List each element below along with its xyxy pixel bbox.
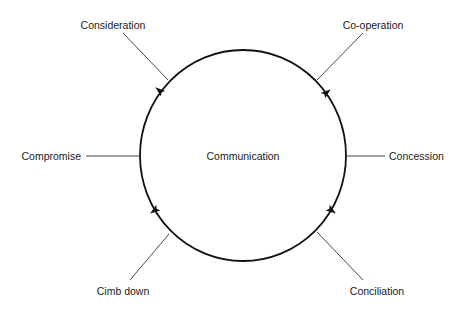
center-label: Communication (207, 150, 280, 162)
node-conciliation: Conciliation (350, 285, 404, 297)
node-co-operation: Co-operation (343, 19, 404, 31)
node-climb-down: Cimb down (97, 285, 150, 297)
connector-conciliation (317, 232, 363, 280)
communication-cycle-diagram: Communication Consideration Co-operation… (0, 0, 465, 313)
node-compromise: Compromise (21, 150, 81, 162)
connector-climb-down (130, 234, 169, 280)
node-consideration: Consideration (81, 19, 146, 31)
node-concession: Concession (389, 150, 444, 162)
connector-co-operation (317, 33, 363, 80)
connector-consideration (123, 33, 168, 80)
